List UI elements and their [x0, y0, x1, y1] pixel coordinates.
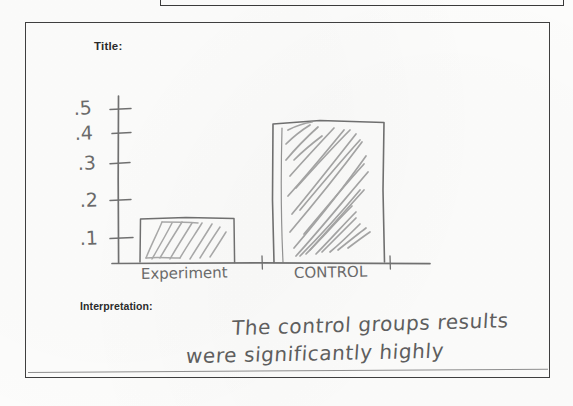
partial-box-above — [160, 0, 564, 6]
title-label: Title: — [94, 40, 122, 52]
interpretation-label: Interpretation: — [80, 300, 153, 312]
